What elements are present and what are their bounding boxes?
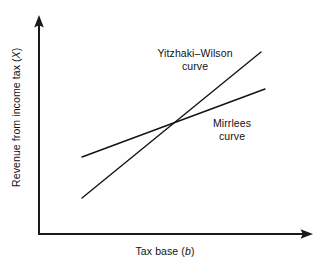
- mirrlees-label-line1: Mirrlees: [213, 117, 251, 129]
- x-axis-title-text: Tax base (: [135, 245, 184, 257]
- mirrlees-label-line2: curve: [219, 130, 245, 142]
- x-axis-title: Tax base (b): [115, 245, 215, 258]
- y-axis-title-suffix: ): [11, 47, 23, 51]
- yitzhaki-wilson-label-line1: Yitzhaki–Wilson: [157, 47, 232, 59]
- chart-plot-area: [0, 0, 330, 268]
- yitzhaki-wilson-label: Yitzhaki–Wilson curve: [152, 47, 238, 72]
- y-axis-title-text: Revenue from income tax (: [11, 58, 23, 187]
- y-axis-title: Revenue from income tax (X): [11, 47, 24, 186]
- x-axis-title-suffix: ): [191, 245, 195, 257]
- y-axis-title-container: Revenue from income tax (X): [0, 0, 34, 234]
- chart-figure: Yitzhaki–Wilson curve Mirrlees curve Tax…: [0, 0, 330, 268]
- y-axis-title-symbol: X: [11, 51, 23, 58]
- yitzhaki-wilson-label-line2: curve: [182, 60, 208, 72]
- mirrlees-label: Mirrlees curve: [200, 117, 264, 142]
